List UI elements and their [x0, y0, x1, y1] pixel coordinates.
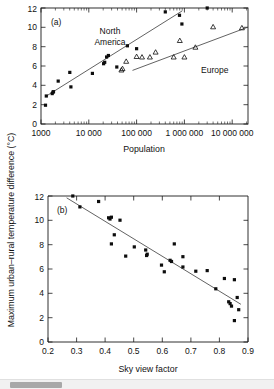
panel-a: 0 2 4 6 8 10 12	[28, 4, 254, 155]
urban-heat-island-figure: Maximum urban–rural temperature differen…	[0, 0, 274, 389]
panel-b-ytick-6: 6	[39, 264, 44, 274]
panel-b-y-tick-labels: 0 2 4 6 8 10 12	[35, 192, 45, 348]
panel-b-xtick-02: 0.2	[42, 346, 54, 356]
panel-a-xtick-100000: 100 000	[121, 128, 152, 138]
panel-a-europe-label: Europe	[201, 65, 229, 75]
panel-a-north-america-points	[44, 6, 209, 106]
panel-b-ytick-10: 10	[35, 215, 45, 225]
panel-a-north-america-fit-line	[46, 11, 182, 96]
panel-a-x-axis-title: Population	[123, 144, 165, 154]
panel-a-x-tick-labels: 1000 10 000 100 000 1 000 000 10 000 000	[32, 128, 254, 138]
panel-a-north-america-label-line1: North	[100, 26, 121, 36]
panel-b-xtick-07: 0.7	[185, 346, 197, 356]
panel-b-xtick-06: 0.6	[156, 346, 168, 356]
panel-a-xtick-1000: 1000	[32, 128, 51, 138]
figure-svg: Maximum urban–rural temperature differen…	[0, 0, 274, 389]
panel-b-plot-frame	[48, 196, 248, 342]
panel-a-label: (a)	[51, 17, 62, 27]
panel-b-x-axis-title: Sky view factor	[118, 364, 177, 374]
panel-b-xtick-05: 0.5	[128, 346, 140, 356]
panel-b-ytick-4: 4	[39, 288, 44, 298]
panel-a-xtick-10000000: 10 000 000	[211, 128, 254, 138]
y-axis-title-text: Maximum urban–rural temperature differen…	[6, 133, 16, 328]
panel-b-x-ticks	[48, 196, 248, 342]
panel-a-ytick-6: 6	[32, 61, 37, 71]
panel-a-ytick-10: 10	[28, 22, 38, 32]
horizontal-scrollbar-track[interactable]	[0, 379, 274, 389]
horizontal-scrollbar-thumb[interactable]	[10, 382, 62, 388]
panel-b-ytick-12: 12	[35, 192, 45, 202]
panel-a-europe-fit-line	[133, 27, 248, 70]
panel-b-points	[71, 194, 240, 322]
panel-a-ytick-4: 4	[32, 80, 37, 90]
panel-a-north-america-label-line2: America	[94, 37, 125, 47]
panel-b: 0 2 4 6 8 10 12 0.2 0.	[35, 192, 255, 375]
panel-a-xtick-1000000: 1 000 000	[165, 128, 203, 138]
panel-b-y-ticks	[48, 196, 248, 342]
panel-a-ytick-2: 2	[32, 100, 37, 110]
panel-b-ytick-2: 2	[39, 313, 44, 323]
panel-a-ytick-8: 8	[32, 42, 37, 52]
panel-b-x-tick-labels: 0.2 0.3 0.4 0.5 0.6 0.7 0.8 0.9	[42, 346, 254, 356]
panel-b-xtick-04: 0.4	[99, 346, 111, 356]
panel-a-y-tick-labels: 0 2 4 6 8 10 12	[28, 4, 38, 130]
panel-a-xtick-10000: 10 000	[76, 128, 102, 138]
panel-b-xtick-03: 0.3	[71, 346, 83, 356]
panel-b-xtick-09: 0.9	[242, 346, 254, 356]
panel-b-xtick-08: 0.8	[213, 346, 225, 356]
panel-b-ytick-8: 8	[39, 240, 44, 250]
panel-a-ytick-12: 12	[28, 4, 38, 14]
panel-b-label: (b)	[57, 205, 68, 215]
shared-y-axis-label: Maximum urban–rural temperature differen…	[6, 133, 16, 328]
